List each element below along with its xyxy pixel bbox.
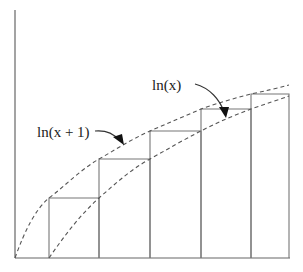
- step-bar-5: [251, 94, 289, 258]
- ln-x-plus-1-label: ln(x + 1): [37, 124, 90, 141]
- step-bar-4: [201, 109, 251, 258]
- step-bar-1: [49, 198, 99, 258]
- step-bar-2: [99, 159, 150, 258]
- step-bars: [49, 94, 289, 258]
- ln-x-curve: [49, 96, 289, 258]
- log-step-diagram: ln(x) ln(x + 1): [0, 0, 303, 272]
- ln-x-plus-1-curve: [15, 85, 289, 258]
- ln-x-arrowhead-icon: [219, 107, 229, 118]
- ln-x-label: ln(x): [152, 77, 181, 94]
- step-bar-3: [150, 131, 201, 258]
